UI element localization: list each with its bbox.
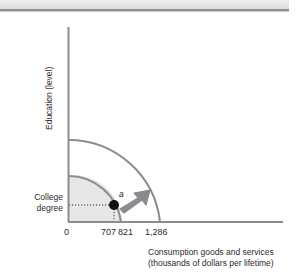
college-degree-line-2: degree (34, 203, 63, 214)
x-axis-caption: Consumption goods and services (thousand… (148, 247, 274, 269)
x-tick-label-0: 0 (64, 227, 69, 237)
x-axis-caption-line-2: (thousands of dollars per lifetime) (148, 258, 274, 269)
x-axis-caption-line-1: Consumption goods and services (148, 247, 274, 258)
y-axis-label: Education (level) (44, 10, 54, 130)
college-degree-line-1: College (34, 192, 63, 203)
x-tick-label-821: 821 (118, 227, 133, 237)
x-tick-label-707: 707 (101, 227, 116, 237)
point-a-marker (109, 200, 119, 210)
x-tick-label-1286: 1,286 (145, 227, 168, 237)
growth-arrow-icon (120, 190, 150, 213)
point-a-label: a (119, 189, 124, 199)
figure-container: Education (level) College degree a 0 707… (0, 0, 300, 275)
y-axis-tick-label-college-degree: College degree (34, 192, 63, 213)
